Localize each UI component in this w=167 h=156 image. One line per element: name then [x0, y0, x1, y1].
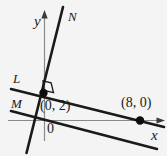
geometry-figure: y x N L M 0 (0, 2) (8, 0) [0, 0, 167, 156]
point-8-0 [136, 116, 144, 124]
point-0-2 [39, 89, 47, 97]
figure-canvas [0, 0, 167, 156]
line-l-label: L [13, 72, 20, 85]
x-axis-label: x [151, 128, 158, 143]
y-axis-label: y [34, 14, 41, 29]
x-axis-arrowhead [157, 117, 166, 123]
line-n-label: N [68, 10, 77, 23]
y-axis-arrowhead [41, 10, 47, 19]
point-0-2-label: (0, 2) [40, 99, 70, 113]
origin-label: 0 [47, 122, 54, 136]
line-m-label: M [11, 97, 22, 110]
point-8-0-label: (8, 0) [121, 96, 151, 110]
